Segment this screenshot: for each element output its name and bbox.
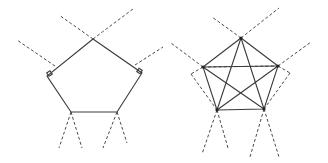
dashed-construction-line	[278, 42, 311, 66]
dashed-construction-line	[250, 109, 264, 157]
dashed-construction-line	[212, 17, 241, 38]
pentagon-diagonal	[203, 66, 278, 67]
dashed-construction-line	[217, 110, 228, 148]
right-pentagon-figure	[171, 8, 311, 157]
dashed-extension-line	[117, 112, 127, 143]
dashed-extension-line	[93, 9, 133, 39]
vertex-point	[276, 64, 279, 67]
pentagon-diagonal	[217, 38, 241, 110]
pentagon-diagonal	[241, 38, 264, 109]
dashed-construction-line	[191, 67, 203, 74]
dashed-extension-line	[59, 15, 93, 39]
dashed-construction-line	[264, 73, 290, 109]
vertex-point	[201, 65, 204, 68]
dashed-extension-line	[103, 112, 117, 148]
dashed-construction-line	[171, 43, 203, 67]
dashed-extension-line	[59, 112, 71, 148]
dashed-extension-line	[135, 47, 163, 65]
pentagon-diagrams	[0, 0, 328, 163]
pentagon-diagonal	[203, 67, 264, 109]
vertex-point	[239, 36, 242, 39]
dashed-construction-line	[278, 66, 290, 73]
vertex-point	[262, 107, 265, 110]
pentagon-outline	[47, 39, 142, 112]
dashed-extension-line	[71, 112, 82, 148]
dashed-construction-line	[191, 74, 217, 110]
left-pentagon-figure	[17, 9, 163, 148]
dashed-construction-line	[264, 109, 279, 157]
pentagon-diagonal	[217, 66, 278, 110]
dashed-construction-line	[202, 110, 217, 154]
dashed-construction-line	[241, 8, 279, 38]
vertex-point	[215, 108, 218, 111]
dashed-extension-line	[17, 40, 55, 66]
